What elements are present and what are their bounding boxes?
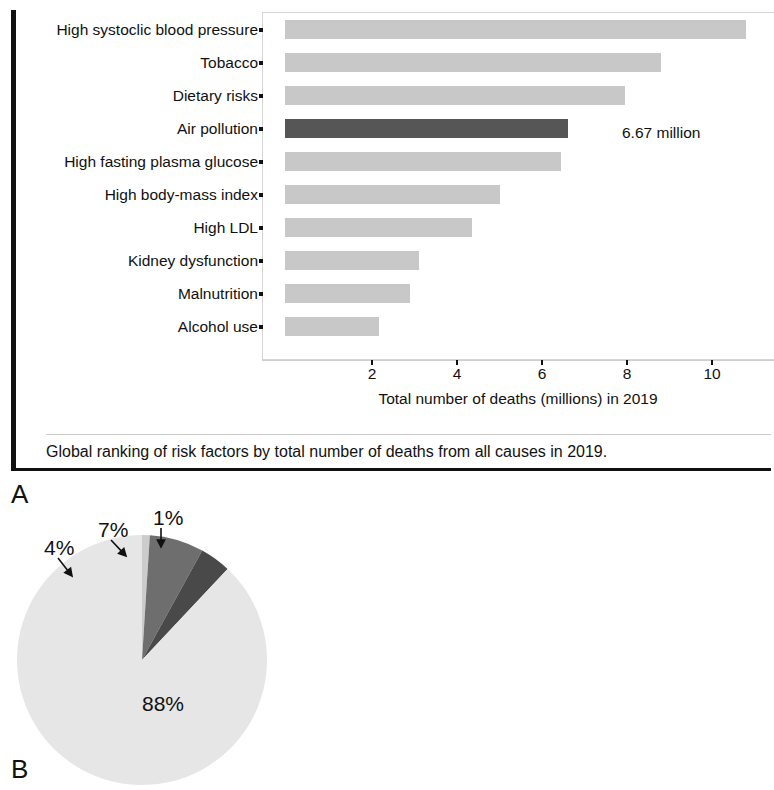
pie-chart-wrap: 1%7%4%88% xyxy=(8,500,268,790)
x-axis-title: Total number of deaths (millions) in 201… xyxy=(262,390,774,408)
category-label: Dietary risks xyxy=(173,86,258,105)
category-tick-mark xyxy=(259,28,263,32)
category-tick-mark xyxy=(259,292,263,296)
category-label: High LDL xyxy=(193,218,258,237)
bar xyxy=(285,86,625,105)
x-axis-line xyxy=(262,360,774,361)
category-label: Air pollution xyxy=(177,119,258,138)
x-axis-tick-label: 8 xyxy=(623,365,632,383)
category-label: High systoclic blood pressure xyxy=(56,20,258,39)
bar xyxy=(285,317,379,336)
x-axis-tick-label: 6 xyxy=(538,365,547,383)
bar xyxy=(285,53,661,72)
bar xyxy=(285,152,561,171)
category-label: Tobacco xyxy=(200,53,258,72)
panel-a-bar-chart: High systoclic blood pressureTobaccoDiet… xyxy=(0,0,774,478)
bar xyxy=(285,185,500,204)
category-tick-mark xyxy=(259,94,263,98)
category-label: Alcohol use xyxy=(178,317,258,336)
bar-row: Dietary risks xyxy=(0,79,774,112)
category-label: High body-mass index xyxy=(105,185,258,204)
category-tick-mark xyxy=(259,226,263,230)
bar xyxy=(285,284,410,303)
bar-row: High LDL xyxy=(0,211,774,244)
x-axis-tick-label: 2 xyxy=(368,365,377,383)
category-tick-mark xyxy=(259,127,263,131)
panel-a-caption-divider xyxy=(46,434,771,435)
category-label: Kidney dysfunction xyxy=(128,251,258,270)
pie-percentage-label: 88% xyxy=(142,692,184,716)
panel-a-caption: Global ranking of risk factors by total … xyxy=(46,443,607,461)
category-label: High fasting plasma glucose xyxy=(64,152,258,171)
category-tick-mark xyxy=(259,193,263,197)
panel-b-pie-chart: 1%7%4%88% Ambient ozoneAmbient PM2.5Hous… xyxy=(0,500,774,790)
bar xyxy=(285,119,568,138)
bar-row: High body-mass index xyxy=(0,178,774,211)
bar-value-annotation: 6.67 million xyxy=(622,124,700,142)
bar xyxy=(285,218,472,237)
pie-percentage-label: 4% xyxy=(44,536,74,560)
pie-percentage-label: 7% xyxy=(98,518,128,542)
category-label: Malnutrition xyxy=(178,284,258,303)
category-tick-mark xyxy=(259,325,263,329)
bar xyxy=(285,20,746,39)
pie-slice xyxy=(17,535,267,785)
category-tick-mark xyxy=(259,160,263,164)
bar-row: Tobacco xyxy=(0,46,774,79)
bar-row: High fasting plasma glucose xyxy=(0,145,774,178)
x-axis-tick-label: 4 xyxy=(453,365,462,383)
panel-a-bottom-rule xyxy=(11,468,771,471)
pie-percentage-label: 1% xyxy=(153,506,183,530)
category-tick-mark xyxy=(259,259,263,263)
bar xyxy=(285,251,419,270)
bar-row: Malnutrition xyxy=(0,277,774,310)
category-tick-mark xyxy=(259,61,263,65)
bar-row: High systoclic blood pressure xyxy=(0,13,774,46)
bar-row: Kidney dysfunction xyxy=(0,244,774,277)
bar-row: Alcohol use xyxy=(0,310,774,343)
x-axis-tick-label: 10 xyxy=(703,365,720,383)
panel-b-letter: B xyxy=(11,754,28,785)
